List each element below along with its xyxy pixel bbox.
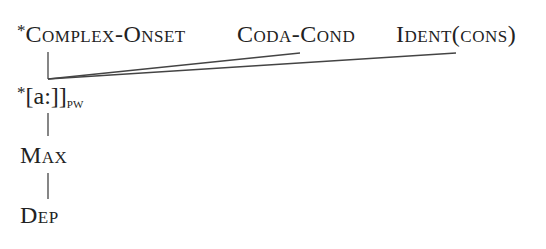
- node-coda-cond: Coda-Cond: [237, 22, 355, 46]
- node-ident-cons: Ident(cons): [396, 22, 516, 46]
- node-max: Max: [20, 143, 67, 167]
- node-complex-onset: *Complex-Onset: [17, 22, 186, 46]
- constraint-label: Complex-Onset: [26, 21, 186, 47]
- node-dep: Dep: [20, 203, 59, 227]
- constraint-label: [a:]]: [26, 83, 67, 109]
- constraint-label: Coda-Cond: [237, 21, 355, 47]
- constraint-label: Max: [20, 142, 67, 168]
- constraint-label: Ident(cons): [396, 21, 516, 47]
- violation-star: *: [17, 83, 26, 102]
- constraint-label: Dep: [20, 202, 59, 228]
- line-ident-cons-to-junction: [48, 53, 456, 79]
- violation-star: *: [17, 21, 26, 40]
- subscript-pw: pw: [67, 95, 84, 111]
- node-pw-boundary: *[a:]]pw: [17, 84, 83, 111]
